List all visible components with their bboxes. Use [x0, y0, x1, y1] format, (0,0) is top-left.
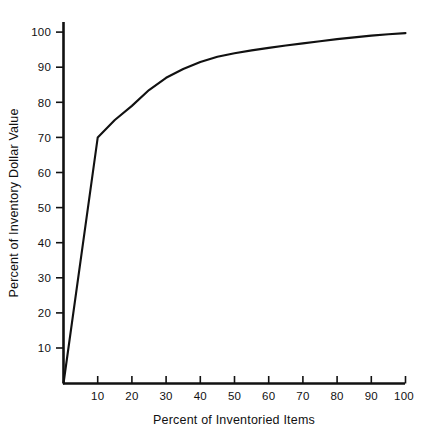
x-tick-label-90: 90: [365, 390, 378, 402]
x-tick-label-60: 60: [262, 390, 275, 402]
y-axis-tick-labels: 100 90 80 70 60 50 40 30 20 10: [31, 26, 51, 354]
y-tick-label-20: 20: [38, 307, 51, 319]
y-axis-title: Percent of Inventory Dollar Value: [7, 108, 21, 297]
x-tick-label-10: 10: [91, 390, 104, 402]
x-tick-label-80: 80: [330, 390, 343, 402]
x-tick-label-40: 40: [194, 390, 207, 402]
y-tick-label-90: 90: [38, 61, 51, 73]
y-tick-label-70: 70: [38, 132, 51, 144]
y-tick-label-40: 40: [38, 237, 51, 249]
x-tick-label-20: 20: [125, 390, 138, 402]
abc-inventory-chart-figure: 100 90 80 70 60 50 40 30 20 10 10: [0, 0, 421, 434]
y-tick-label-30: 30: [38, 272, 51, 284]
y-tick-label-80: 80: [38, 97, 51, 109]
x-tick-label-50: 50: [228, 390, 241, 402]
inventory-value-curve: [64, 33, 406, 383]
y-tick-label-100: 100: [31, 26, 51, 38]
x-tick-label-100: 100: [394, 390, 414, 402]
y-tick-label-60: 60: [38, 167, 51, 179]
x-tick-label-70: 70: [296, 390, 309, 402]
chart-plot-area: 100 90 80 70 60 50 40 30 20 10 10: [0, 0, 421, 434]
x-tick-label-30: 30: [159, 390, 172, 402]
x-axis-title: Percent of Inventoried Items: [153, 413, 315, 427]
y-tick-label-50: 50: [38, 202, 51, 214]
y-tick-label-10: 10: [38, 342, 51, 354]
x-axis-tick-labels: 10 20 30 40 50 60 70 80 90 100: [91, 390, 414, 402]
